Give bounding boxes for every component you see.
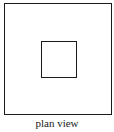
inner-square (41, 41, 77, 78)
diagram-caption: plan view (0, 117, 114, 129)
